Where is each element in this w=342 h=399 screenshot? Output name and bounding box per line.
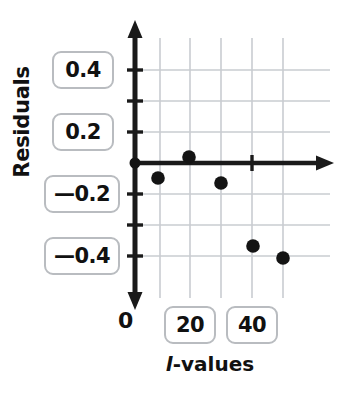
residual-plot-figure: 0.4 0.2 —0.2 —0.4 0 20 40 Residuals l-va…: [0, 0, 342, 399]
data-point: [151, 171, 165, 185]
data-point: [246, 239, 260, 253]
y-tick-label-neg0.4: —0.4: [44, 237, 120, 275]
x-axis-title-suffix: -values: [173, 352, 254, 376]
vertical-gridlines: [160, 38, 283, 298]
x-axis: [135, 155, 334, 171]
x-axis-title-variable: l: [166, 352, 173, 376]
y-axis-arrow-up: [128, 20, 143, 38]
data-point: [214, 176, 228, 190]
origin-label: 0: [118, 308, 133, 333]
y-axis-title: Residuals: [10, 62, 34, 182]
x-axis-title: l-values: [120, 352, 300, 376]
data-point: [276, 251, 290, 265]
x-tick-label-20: 20: [164, 306, 216, 344]
y-tick-label-0.4: 0.4: [52, 51, 114, 89]
y-tick-label-0.2: 0.2: [52, 113, 114, 151]
data-point: [182, 150, 196, 164]
y-tick-label-neg0.2: —0.2: [44, 175, 120, 213]
origin-point: [130, 158, 141, 169]
x-tick-label-40: 40: [226, 306, 278, 344]
x-axis-arrow-right: [316, 156, 334, 171]
